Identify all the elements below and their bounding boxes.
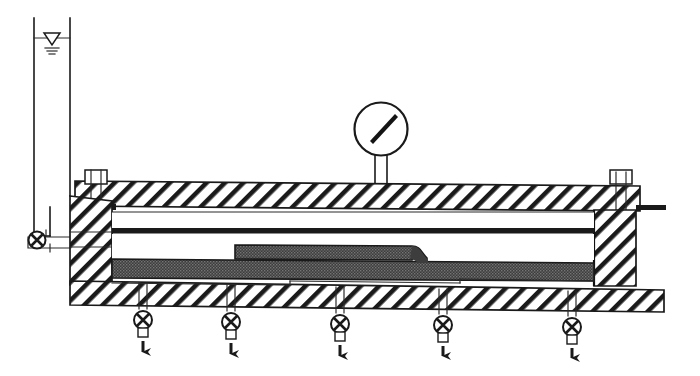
top-lid [75, 181, 640, 211]
right-chamber-wall [594, 210, 636, 286]
inlet-valve[interactable] [29, 232, 46, 249]
left-chamber-wall [70, 196, 112, 285]
apparatus-diagram [0, 0, 700, 376]
figure-canvas: Laboratory permeameter / seepage test ap… [0, 0, 700, 376]
right-flange-tab [636, 205, 666, 210]
water-level-symbol [44, 33, 60, 54]
pressure-gauge[interactable] [355, 103, 408, 192]
base-plate [70, 281, 664, 312]
